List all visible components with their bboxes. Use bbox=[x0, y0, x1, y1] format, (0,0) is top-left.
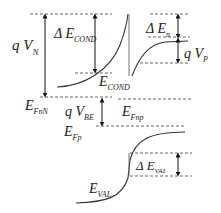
econd-right-curve bbox=[132, 41, 188, 76]
label-dEn: Δ En bbox=[145, 21, 170, 39]
econd-left-curve bbox=[57, 14, 128, 87]
label-dEcond: Δ ECOND bbox=[53, 26, 96, 44]
labels: q VN Δ ECOND Δ En q VP ECOND EFnN q VBE … bbox=[12, 21, 208, 199]
conduction-band bbox=[57, 14, 188, 87]
label-dEval: Δ EVAL bbox=[135, 158, 167, 175]
label-EFp: EFp bbox=[63, 124, 81, 142]
label-qVBE: q VBE bbox=[65, 104, 94, 122]
label-EFnN: EFnN bbox=[24, 98, 48, 116]
band-diagram: q VN Δ ECOND Δ En q VP ECOND EFnN q VBE … bbox=[0, 0, 221, 213]
label-EFnp: EFnp bbox=[121, 104, 143, 122]
label-Eval: EVAL bbox=[88, 181, 112, 199]
label-Econd: ECOND bbox=[98, 74, 130, 92]
label-qVP: q VP bbox=[184, 46, 208, 64]
label-qVN: q VN bbox=[12, 37, 39, 57]
